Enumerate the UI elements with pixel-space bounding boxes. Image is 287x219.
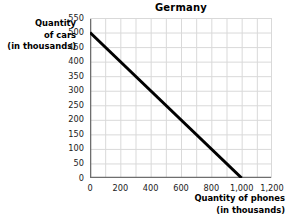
y-tick-label: 250 [60, 101, 84, 110]
x-tick-label: 1,200 [252, 184, 287, 193]
x-axis-title-line-1: Quantity of phones [120, 193, 285, 205]
x-tick-label: 600 [161, 184, 201, 193]
x-tick-label: 0 [70, 184, 110, 193]
y-tick-label: 50 [60, 159, 84, 168]
x-tick-label: 400 [131, 184, 171, 193]
y-axis-title-line-1: Quantity [0, 18, 76, 30]
plot-area [90, 18, 272, 178]
y-tick-label: 0 [60, 174, 84, 183]
x-tick-label: 200 [100, 184, 140, 193]
y-tick-label: 300 [60, 86, 84, 95]
y-tick-label: 150 [60, 130, 84, 139]
chart-title: Germany [90, 1, 272, 14]
chart-figure: Germany Quantity of cars (in thousands) … [0, 0, 287, 219]
x-tick-label: 800 [191, 184, 231, 193]
y-tick-label: 350 [60, 72, 84, 81]
x-axis-title-line-2: (in thousands) [120, 205, 285, 217]
plot-svg [90, 18, 272, 178]
y-axis-title-line-3: (in thousands) [0, 41, 76, 53]
y-axis-title-line-2: of cars [0, 30, 76, 42]
gridlines [90, 18, 272, 178]
x-tick-label: 1,000 [222, 184, 262, 193]
y-tick-label: 200 [60, 115, 84, 124]
y-tick-label: 400 [60, 57, 84, 66]
x-axis-title: Quantity of phones (in thousands) [120, 193, 285, 216]
y-axis-title: Quantity of cars (in thousands) [0, 18, 76, 53]
y-tick-label: 100 [60, 144, 84, 153]
